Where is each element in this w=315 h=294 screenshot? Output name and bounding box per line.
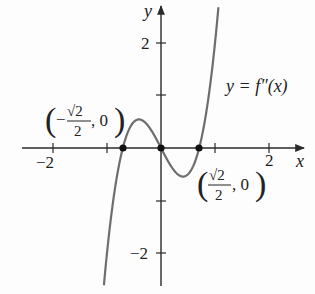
svg-text:): ) — [114, 101, 125, 139]
point-neg-root — [119, 144, 126, 151]
svg-text:, 0: , 0 — [91, 111, 108, 130]
svg-text:−: − — [56, 110, 66, 129]
curve-label: y = f″(x) — [224, 76, 288, 97]
ytick-label-2: 2 — [141, 34, 150, 53]
y-axis-label: y — [142, 1, 152, 21]
svg-text:√2: √2 — [209, 167, 225, 183]
svg-text:): ) — [255, 165, 266, 203]
chart: y x 2 −2 −2 2 y = f″(x) ( − √2 2 , 0 ) (… — [0, 0, 315, 294]
xtick-label-neg2: −2 — [36, 153, 54, 172]
svg-text:(: ( — [197, 165, 208, 203]
point-pos-root — [195, 144, 202, 151]
svg-text:, 0: , 0 — [232, 175, 249, 194]
svg-text:√2: √2 — [67, 103, 83, 119]
point-origin — [157, 144, 164, 151]
left-point-label: ( − √2 2 , 0 ) — [45, 101, 125, 139]
x-axis-label: x — [295, 151, 304, 171]
svg-text:2: 2 — [215, 187, 223, 203]
ytick-label-neg2: −2 — [130, 244, 148, 263]
svg-text:2: 2 — [74, 123, 82, 139]
svg-text:(: ( — [45, 101, 56, 139]
right-point-label: ( √2 2 , 0 ) — [197, 165, 266, 203]
